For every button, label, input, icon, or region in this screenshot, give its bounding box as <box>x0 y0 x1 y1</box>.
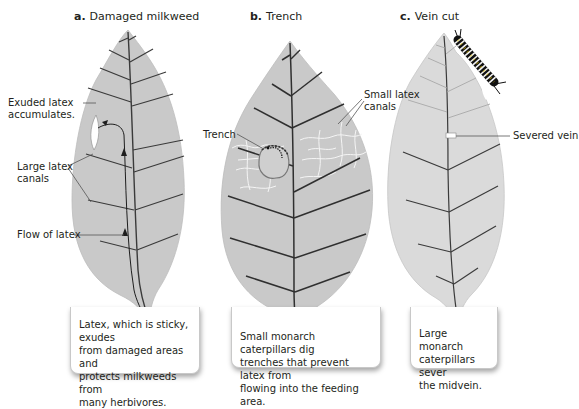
leaf-vein-cut <box>388 29 510 322</box>
caption-c-line2: caterpillars sever <box>419 353 489 379</box>
caption-a-line3: protects milkweeds from <box>79 370 191 396</box>
caption-c-line1: Large monarch <box>419 327 489 353</box>
label-small-canals-line1: Small latex <box>364 89 420 101</box>
caption-a-line2: from damaged areas and <box>79 344 191 370</box>
label-exuded-line1: Exuded latex <box>8 97 75 109</box>
caption-c-line3: the midvein. <box>419 379 489 392</box>
caption-b-line3: flowing into the feeding area. <box>240 382 372 408</box>
caption-a-line4: many herbivores. <box>79 396 191 409</box>
panel-b-letter: b. <box>250 10 262 23</box>
caption-a-line1: Latex, which is sticky, exudes <box>79 318 191 344</box>
label-exuded-line2: accumulates. <box>8 109 75 121</box>
label-small-canals-line2: canals <box>364 101 420 113</box>
panel-a-title: a.Damaged milkweed <box>74 10 199 23</box>
label-canals-line2: canals <box>17 173 73 185</box>
panel-c-title-text: Vein cut <box>415 10 459 23</box>
label-canals-line1: Large latex <box>17 161 73 173</box>
panel-c-title: c.Vein cut <box>400 10 459 23</box>
label-flow-of-latex: Flow of latex <box>17 229 81 241</box>
label-large-latex-canals: Large latex canals <box>17 161 73 185</box>
caption-damaged-milkweed: Latex, which is sticky, exudes from dama… <box>70 307 200 374</box>
leaf-trench <box>221 41 372 332</box>
caption-b-line2: trenches that prevent latex from <box>240 356 372 382</box>
label-small-latex-canals: Small latex canals <box>364 89 420 113</box>
panel-c-letter: c. <box>400 10 411 23</box>
caption-vein-cut: Large monarch caterpillars sever the mid… <box>410 307 498 369</box>
caption-b-line1: Small monarch caterpillars dig <box>240 330 372 356</box>
panel-a-letter: a. <box>74 10 86 23</box>
leaf-damaged-milkweed <box>68 30 184 322</box>
label-exuded-latex: Exuded latex accumulates. <box>8 97 75 121</box>
panel-b-title-text: Trench <box>266 10 302 23</box>
panel-b-title: b.Trench <box>250 10 302 23</box>
label-severed-vein: Severed vein <box>513 130 578 142</box>
panel-a-title-text: Damaged milkweed <box>90 10 200 23</box>
label-trench: Trench <box>203 129 236 141</box>
caption-trench: Small monarch caterpillars dig trenches … <box>231 307 381 368</box>
